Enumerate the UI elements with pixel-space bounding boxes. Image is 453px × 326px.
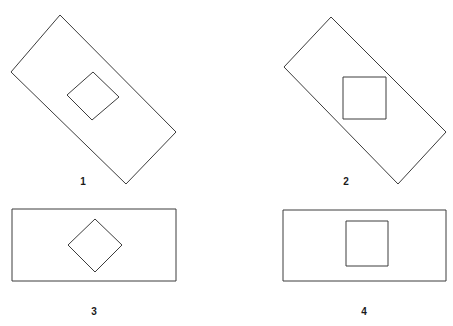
figure-2-inner-square xyxy=(343,77,386,119)
figure-stage: 1 2 3 4 xyxy=(0,0,453,326)
figure-4-inner-square xyxy=(346,221,388,266)
figure-1-outer-rectangle xyxy=(11,15,176,184)
figure-1-inner-diamond xyxy=(67,72,119,120)
figure-1-group xyxy=(11,15,176,184)
figure-4-label: 4 xyxy=(354,307,374,317)
figure-2-group xyxy=(284,17,446,184)
figure-4-group xyxy=(283,210,446,281)
figure-3-group xyxy=(12,209,176,281)
figures-canvas xyxy=(0,0,453,326)
figure-1-label: 1 xyxy=(73,177,93,187)
figure-2-label: 2 xyxy=(336,177,356,187)
figure-2-outer-rectangle xyxy=(284,17,446,184)
figure-3-inner-diamond xyxy=(68,219,122,272)
figure-3-label: 3 xyxy=(84,307,104,317)
